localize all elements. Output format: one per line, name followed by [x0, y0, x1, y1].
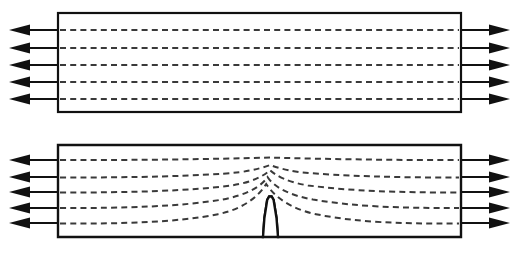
load-arrows-right-unnotched	[461, 25, 510, 105]
panel-unnotched-bar	[9, 13, 510, 112]
load-arrow-head-left-icon	[9, 60, 30, 71]
figure-canvas	[0, 0, 519, 255]
load-arrow-head-right-icon	[489, 203, 510, 214]
load-arrow-head-right-icon	[489, 172, 510, 183]
load-arrow-head-right-icon	[489, 25, 510, 36]
load-arrows-left-unnotched	[9, 25, 58, 105]
load-arrow-head-right-icon	[489, 77, 510, 88]
load-arrow-head-right-icon	[489, 60, 510, 71]
load-arrow-head-left-icon	[9, 218, 30, 229]
flow-lines-unnotched	[60, 30, 459, 99]
load-arrow-head-left-icon	[9, 187, 30, 198]
load-arrow-head-left-icon	[9, 25, 30, 36]
load-arrow-head-right-icon	[489, 94, 510, 105]
load-arrow-head-right-icon	[489, 155, 510, 166]
load-arrow-head-left-icon	[9, 155, 30, 166]
load-arrow-head-right-icon	[489, 187, 510, 198]
stress-flow-figure: Stress flow lines in a bar without and w…	[0, 0, 519, 255]
load-arrow-head-left-icon	[9, 77, 30, 88]
panel-notched-bar	[9, 145, 510, 237]
load-arrow-head-left-icon	[9, 94, 30, 105]
load-arrows-right-notched	[461, 155, 510, 229]
load-arrow-head-left-icon	[9, 43, 30, 54]
load-arrow-head-left-icon	[9, 203, 30, 214]
load-arrow-head-right-icon	[489, 43, 510, 54]
load-arrow-head-left-icon	[9, 172, 30, 183]
load-arrow-head-right-icon	[489, 218, 510, 229]
bar-outline-unnotched	[58, 13, 461, 112]
load-arrows-left-notched	[9, 155, 58, 229]
